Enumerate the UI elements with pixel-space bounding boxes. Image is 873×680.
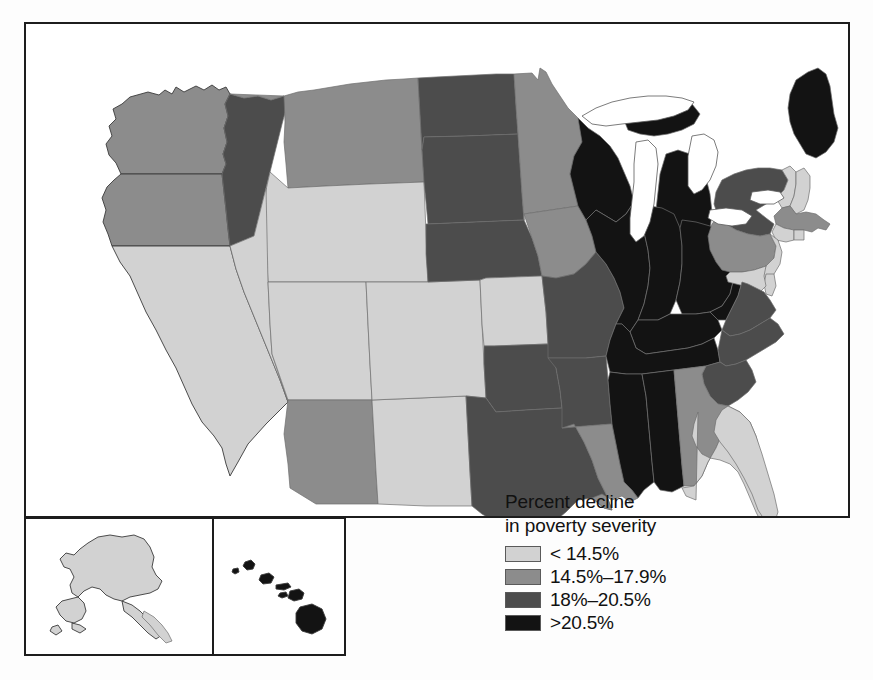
island-molokai[interactable] [276,583,291,590]
legend-label-bin-2: 14.5%–17.9% [550,567,666,586]
legend-label-bin-1: < 14.5% [550,544,619,563]
legend-entries: < 14.5% 14.5%–17.9% 18%–20.5% >20.5% [505,542,666,634]
state-NM[interactable] [372,396,472,506]
state-WY[interactable] [264,172,428,282]
hawaii-islands[interactable] [232,560,326,634]
legend-row[interactable]: 14.5%–17.9% [505,565,666,588]
state-CO[interactable] [366,280,486,400]
map-legend: Percent decline in poverty severity < 14… [505,490,666,634]
legend-title-line-2: in poverty severity [505,514,666,538]
states-layer [102,68,838,516]
state-ME[interactable] [788,68,838,158]
legend-title-line-1: Percent decline [505,490,666,514]
state-UT[interactable] [268,282,372,400]
legend-swatch-bin-2 [505,569,541,585]
legend-row[interactable]: < 14.5% [505,542,666,565]
state-KS[interactable] [480,276,548,346]
us-choropleth-map [26,24,848,516]
state-WA[interactable] [106,85,230,174]
hawaii-inset-frame [212,517,346,656]
island-maui[interactable] [288,589,304,601]
map-stage [26,24,848,516]
island-hawaii[interactable] [296,604,326,634]
legend-row[interactable]: >20.5% [505,611,666,634]
alaska-inset-frame [24,517,214,656]
island-niihau[interactable] [232,568,239,574]
legend-row[interactable]: 18%–20.5% [505,588,666,611]
figure-page: Percent decline in poverty severity < 14… [0,0,873,680]
legend-swatch-bin-3 [505,592,541,608]
island-oahu[interactable] [259,573,274,584]
state-OR[interactable] [102,174,230,246]
legend-swatch-bin-1 [505,546,541,562]
legend-label-bin-4: >20.5% [550,613,614,632]
island-lanai[interactable] [278,592,288,598]
legend-label-bin-3: 18%–20.5% [550,590,651,609]
hawaii-inset-map [214,519,344,654]
state-NE[interactable] [426,220,542,282]
state-RI[interactable] [794,230,804,240]
legend-swatch-bin-4 [505,615,541,631]
map-frame: Percent decline in poverty severity < 14… [24,22,850,518]
lake-huron [688,134,718,194]
island-kauai[interactable] [243,560,255,570]
alaska-inset-map [26,519,212,654]
state-SD[interactable] [422,134,524,224]
state-AZ[interactable] [284,400,378,504]
state-AK[interactable] [50,535,162,639]
